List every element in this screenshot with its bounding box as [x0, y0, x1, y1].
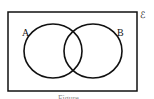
set-a-label: A	[22, 28, 29, 38]
set-b-label: B	[117, 28, 124, 38]
set-b-circle	[64, 24, 122, 78]
venn-diagram	[0, 0, 154, 99]
universal-set-label: ℰ	[140, 11, 145, 20]
figure-caption: Figure	[58, 95, 79, 99]
universal-set-rectangle	[8, 12, 137, 91]
